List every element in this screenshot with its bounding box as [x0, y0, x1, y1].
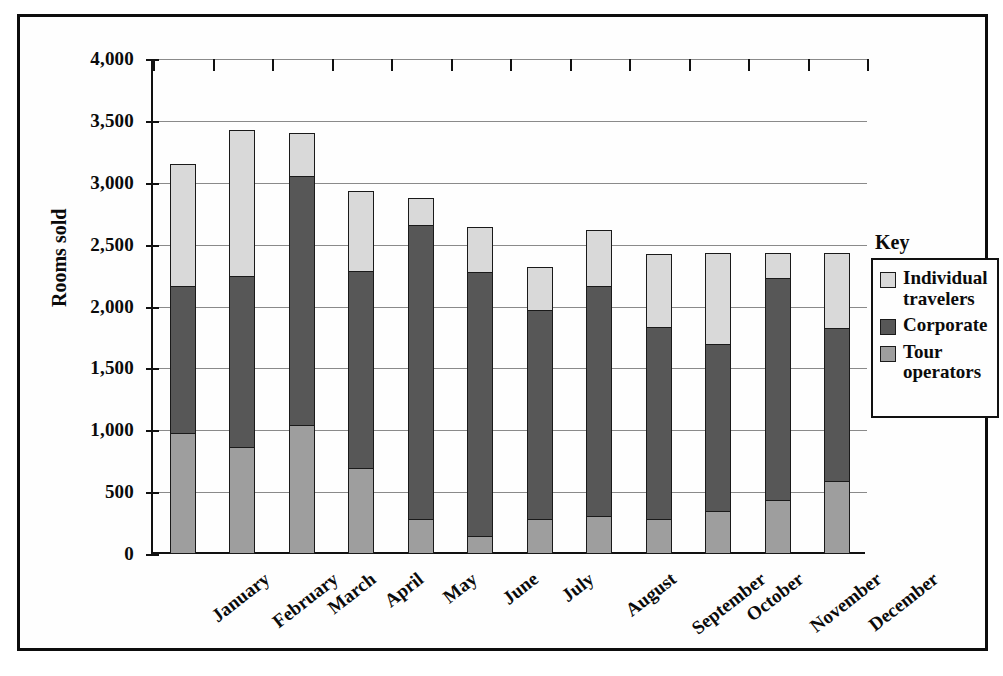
bar-segment-individual-travelers[interactable] — [527, 267, 553, 312]
bar-segment-corporate[interactable] — [824, 328, 850, 483]
x-axis-category-label: July — [557, 568, 598, 607]
bar-segment-tour-operators[interactable] — [646, 519, 672, 554]
gridline — [153, 368, 867, 369]
x-axis-tick — [391, 59, 393, 71]
bar-segment-corporate[interactable] — [348, 271, 374, 470]
bar-segment-individual-travelers[interactable] — [408, 198, 434, 227]
bar-stack[interactable] — [586, 230, 612, 552]
x-axis-tick — [153, 59, 155, 71]
gridline — [153, 245, 867, 246]
bar-segment-corporate[interactable] — [229, 276, 255, 449]
bar-segment-individual-travelers[interactable] — [824, 253, 850, 329]
bar-segment-corporate[interactable] — [289, 176, 315, 427]
bar-segment-corporate[interactable] — [765, 278, 791, 502]
bar-segment-individual-travelers[interactable] — [646, 254, 672, 328]
bar-segment-individual-travelers[interactable] — [289, 133, 315, 177]
bar-stack[interactable] — [467, 227, 493, 552]
legend-item-label: Corporate — [903, 315, 987, 336]
y-axis-tick-label: 0 — [56, 543, 134, 565]
legend-item-label: Tour operators — [903, 342, 990, 383]
bar-segment-tour-operators[interactable] — [289, 425, 315, 553]
x-axis-tick — [808, 59, 810, 71]
bar-segment-individual-travelers[interactable] — [705, 253, 731, 345]
bar-segment-individual-travelers[interactable] — [586, 230, 612, 288]
bar-segment-individual-travelers[interactable] — [765, 253, 791, 279]
gridline — [153, 307, 867, 308]
x-axis-tick — [451, 59, 453, 71]
gridline — [153, 183, 867, 184]
bar-segment-tour-operators[interactable] — [586, 516, 612, 553]
y-axis-tick-label: 4,000 — [56, 48, 134, 70]
x-axis-tick — [689, 59, 691, 71]
legend-swatch-corporate — [880, 319, 896, 335]
bar-segment-corporate[interactable] — [646, 327, 672, 521]
bar-segment-individual-travelers[interactable] — [348, 191, 374, 273]
bar-segment-tour-operators[interactable] — [467, 536, 493, 554]
bar-stack[interactable] — [824, 253, 850, 552]
bar-segment-tour-operators[interactable] — [170, 433, 196, 554]
bar-segment-tour-operators[interactable] — [527, 519, 553, 554]
x-axis-category-label: January — [207, 568, 274, 627]
x-axis-category-label: June — [499, 568, 543, 609]
x-axis-tick — [748, 59, 750, 71]
x-axis-category-label: May — [439, 568, 482, 608]
gridline — [153, 430, 867, 431]
bar-stack[interactable] — [765, 253, 791, 552]
x-axis-category-label: August — [622, 568, 681, 621]
bar-segment-tour-operators[interactable] — [229, 447, 255, 553]
legend-item[interactable]: Corporate — [880, 315, 990, 336]
bar-stack[interactable] — [705, 253, 731, 552]
bar-segment-corporate[interactable] — [705, 344, 731, 513]
legend-swatch-individual-travelers — [880, 272, 896, 288]
gridline — [153, 121, 867, 122]
x-axis-tick — [213, 59, 215, 71]
x-axis-tick — [272, 59, 274, 71]
bar-segment-corporate[interactable] — [467, 272, 493, 537]
bar-segment-tour-operators[interactable] — [348, 468, 374, 553]
bar-stack[interactable] — [170, 164, 196, 552]
bar-stack[interactable] — [289, 133, 315, 552]
bar-segment-corporate[interactable] — [170, 286, 196, 434]
x-axis-tick — [332, 59, 334, 71]
legend-box: Individual travelersCorporateTour operat… — [871, 258, 999, 418]
bar-segment-corporate[interactable] — [408, 225, 434, 520]
y-axis-tick — [146, 368, 159, 370]
bar-stack[interactable] — [527, 267, 553, 552]
y-axis-tick — [146, 121, 159, 123]
y-axis-tick — [146, 554, 159, 556]
bar-segment-individual-travelers[interactable] — [170, 164, 196, 288]
y-axis-tick-label: 3,000 — [56, 172, 134, 194]
gridline — [153, 492, 867, 493]
y-axis-tick — [146, 245, 159, 247]
bar-segment-tour-operators[interactable] — [765, 500, 791, 553]
x-axis-tick — [867, 59, 869, 71]
plot-area — [151, 59, 865, 554]
bar-segment-corporate[interactable] — [586, 286, 612, 517]
figure-frame: Rooms sold 4,0003,5003,0002,5002,0001,50… — [17, 14, 988, 651]
y-axis-tick — [146, 430, 159, 432]
bar-segment-tour-operators[interactable] — [408, 519, 434, 554]
x-axis-category-label: April — [380, 568, 428, 612]
bar-segment-tour-operators[interactable] — [705, 511, 731, 553]
bar-segment-tour-operators[interactable] — [824, 481, 850, 553]
bar-stack[interactable] — [348, 191, 374, 552]
bar-stack[interactable] — [408, 198, 434, 552]
bar-stack[interactable] — [229, 130, 255, 552]
y-axis-tick-label: 2,000 — [56, 296, 134, 318]
y-axis-tick-label: 1,500 — [56, 357, 134, 379]
bar-segment-individual-travelers[interactable] — [467, 227, 493, 273]
x-axis-tick — [629, 59, 631, 71]
bar-segment-individual-travelers[interactable] — [229, 130, 255, 277]
legend-item[interactable]: Individual travelers — [880, 268, 990, 309]
legend-item[interactable]: Tour operators — [880, 342, 990, 383]
bar-stack[interactable] — [646, 254, 672, 552]
y-axis-tick-label: 2,500 — [56, 234, 134, 256]
legend-swatch-tour-operators — [880, 346, 896, 362]
x-axis-tick — [570, 59, 572, 71]
y-axis-title: Rooms sold — [48, 209, 71, 307]
y-axis-tick-label: 500 — [56, 481, 134, 503]
legend-item-label: Individual travelers — [903, 268, 990, 309]
y-axis-tick — [146, 183, 159, 185]
bar-segment-corporate[interactable] — [527, 310, 553, 520]
y-axis-tick-label: 1,000 — [56, 419, 134, 441]
